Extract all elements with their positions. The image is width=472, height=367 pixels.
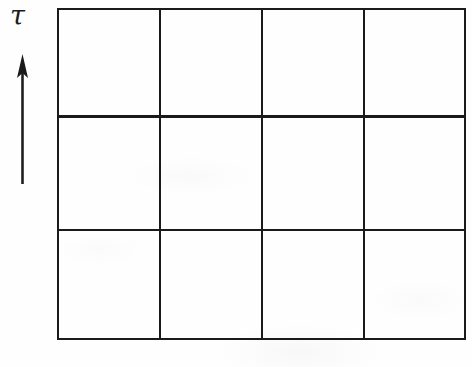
grid-table — [57, 8, 466, 340]
figure-canvas: τ — [0, 0, 472, 367]
arrow-up-icon — [6, 52, 40, 188]
tau-axis-label: τ — [10, 2, 25, 29]
